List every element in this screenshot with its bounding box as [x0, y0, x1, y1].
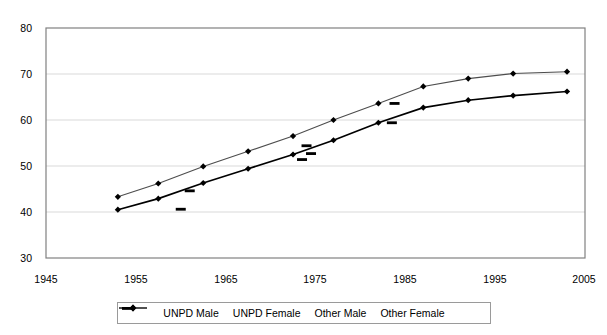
legend-label-other-female: Other Female	[380, 308, 444, 319]
series-unpd-male	[115, 88, 570, 212]
plot-frame	[46, 28, 585, 258]
legend-item-unpd-female: UNPD Female	[233, 308, 301, 319]
data-point	[420, 104, 426, 110]
series-layer	[115, 69, 570, 213]
data-point	[155, 180, 161, 186]
data-point	[302, 144, 312, 147]
data-point	[185, 189, 195, 192]
data-point	[306, 152, 316, 155]
data-point	[330, 137, 336, 143]
data-point	[564, 88, 570, 94]
data-point	[375, 100, 381, 106]
data-point	[390, 102, 400, 105]
data-point	[420, 83, 426, 89]
legend: UNPD Male UNPD Female Other Male Other F…	[117, 302, 491, 324]
data-point	[200, 163, 206, 169]
legend-item-other-male: Other Male	[314, 308, 366, 319]
line-chart: 80 70 60 50 40 30 1945 1955 1965 1975 19…	[0, 0, 607, 335]
data-point	[155, 196, 161, 202]
data-point	[465, 97, 471, 103]
data-point	[245, 148, 251, 154]
data-point	[387, 121, 397, 124]
data-point	[465, 76, 471, 82]
gridlines	[46, 74, 585, 212]
legend-marker-dash	[118, 303, 136, 313]
data-point	[200, 180, 206, 186]
plot-area	[0, 0, 607, 335]
data-point	[115, 194, 121, 200]
legend-label-unpd-female: UNPD Female	[233, 308, 301, 319]
series-line	[118, 72, 567, 197]
legend-label-unpd-male: UNPD Male	[163, 308, 218, 319]
data-point	[245, 166, 251, 172]
data-point	[290, 133, 296, 139]
legend-label-other-male: Other Male	[314, 308, 366, 319]
data-point	[297, 158, 307, 161]
data-point	[510, 93, 516, 99]
series-unpd-female	[115, 69, 570, 200]
legend-item-other-female: Other Female	[380, 308, 444, 319]
data-point	[176, 208, 186, 211]
legend-item-unpd-male: UNPD Male	[163, 308, 218, 319]
data-point	[510, 70, 516, 76]
data-point	[375, 120, 381, 126]
data-point	[290, 151, 296, 157]
data-point	[330, 117, 336, 123]
